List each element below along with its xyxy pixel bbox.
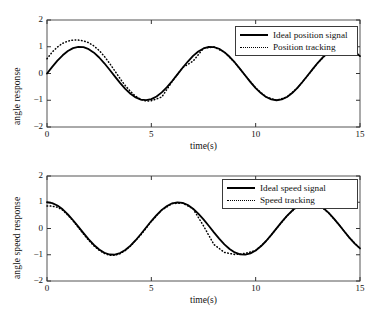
y-tick-label: 1: [21, 196, 43, 206]
y-tick-label: −1: [21, 249, 43, 259]
y-tick-label: 0: [21, 223, 43, 233]
x-tick-label: 10: [244, 129, 268, 139]
y-axis-title-speed: angle speed response: [12, 197, 22, 279]
x-tick-label: 15: [348, 283, 372, 293]
x-tick-label: 10: [244, 283, 268, 293]
legend-entry-ideal-speed-signal: Ideal speed signal: [226, 182, 353, 194]
y-tick-label: 2: [21, 170, 43, 180]
y-tick-label: −1: [21, 94, 43, 104]
x-axis-title-position: time(s): [47, 141, 360, 151]
legend-key-dotted-line-icon: [239, 42, 269, 52]
chart-panel-angle-speed-response: angle speed response time(s) Ideal speed…: [0, 160, 378, 310]
legend-entry-ideal-position-signal: Ideal position signal: [239, 29, 353, 41]
legend-label-ideal-speed-signal: Ideal speed signal: [260, 182, 326, 194]
y-tick-label: 0: [21, 68, 43, 78]
legend-key-dotted-line-icon: [226, 195, 256, 205]
legend-label-speed-tracking: Speed tracking: [260, 194, 315, 206]
legend-key-solid-line-icon: [226, 183, 256, 193]
legend-position-panel: Ideal position signal Position tracking: [235, 26, 358, 56]
x-axis-title-speed: time(s): [47, 295, 360, 305]
x-tick-label: 0: [35, 129, 59, 139]
legend-label-ideal-position-signal: Ideal position signal: [273, 29, 348, 41]
legend-entry-speed-tracking: Speed tracking: [226, 194, 353, 206]
figure-two-panel-response-plots: angle response time(s) Ideal position si…: [0, 0, 378, 318]
y-tick-label: 1: [21, 41, 43, 51]
x-tick-label: 5: [139, 283, 163, 293]
x-tick-label: 5: [139, 129, 163, 139]
x-tick-label: 0: [35, 283, 59, 293]
chart-panel-angle-position-response: angle response time(s) Ideal position si…: [0, 4, 378, 154]
x-tick-label: 15: [348, 129, 372, 139]
legend-speed-panel: Ideal speed signal Speed tracking: [222, 179, 358, 209]
legend-label-position-tracking: Position tracking: [273, 41, 336, 53]
legend-entry-position-tracking: Position tracking: [239, 41, 353, 53]
legend-key-solid-line-icon: [239, 30, 269, 40]
series-speed-tracking: [47, 203, 360, 256]
y-tick-label: 2: [21, 14, 43, 24]
